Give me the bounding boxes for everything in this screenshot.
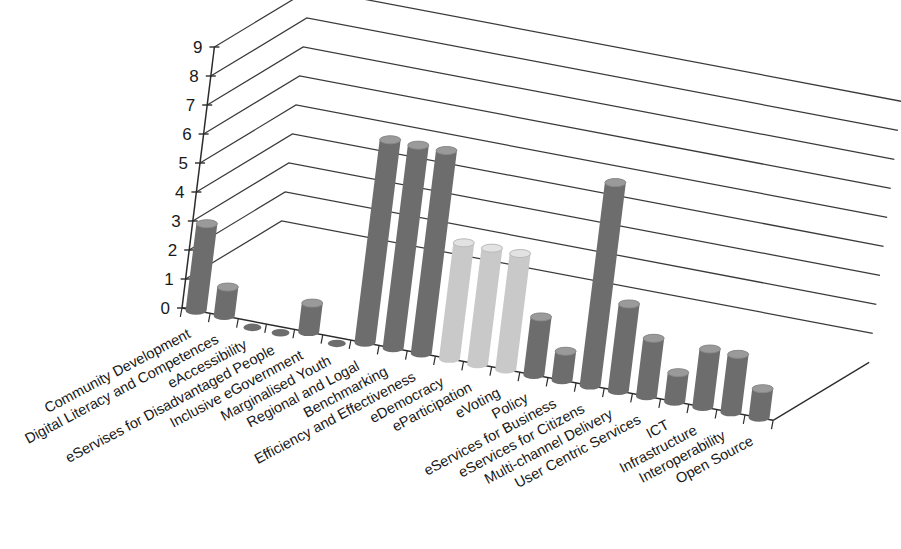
bar [664, 369, 689, 406]
value-tick-label: 4 [175, 183, 184, 202]
bar-cap [728, 350, 749, 358]
value-tick-label: 8 [189, 67, 198, 86]
bar-cap [217, 283, 238, 291]
bar [243, 324, 261, 332]
bar [272, 329, 290, 337]
bar-cap [196, 220, 217, 228]
bar-cap [619, 300, 640, 308]
bar [552, 347, 577, 384]
bar-cap [668, 369, 689, 377]
bar-zero-marker [328, 340, 346, 348]
value-tick-label: 6 [182, 125, 191, 144]
bar [749, 385, 774, 422]
chart-figure: 0123456789 Community DevelopmentDigital … [0, 0, 901, 549]
bar-cap [531, 313, 552, 321]
bar-cap [555, 347, 576, 355]
bar-cap [699, 345, 720, 353]
bar-cap [752, 385, 773, 393]
bar-cap [302, 299, 323, 307]
bar-cap [408, 141, 429, 149]
value-tick-label: 7 [186, 96, 195, 115]
bar-cap [380, 136, 401, 144]
value-tick-label: 5 [179, 154, 188, 173]
chart-canvas: 0123456789 Community DevelopmentDigital … [0, 0, 901, 549]
value-tick-label: 3 [171, 212, 180, 231]
value-tick-label: 9 [193, 38, 202, 57]
bar-cap [453, 239, 474, 247]
bar-cap [605, 179, 626, 187]
bar-zero-marker [272, 329, 290, 337]
bar [328, 340, 346, 348]
value-tick-label: 2 [168, 241, 177, 260]
bar-cap [510, 250, 531, 258]
bar-cap [436, 146, 457, 154]
value-tick-label: 1 [164, 270, 173, 289]
bar-cap [643, 334, 664, 342]
bar [214, 283, 239, 320]
bar-cap [481, 244, 502, 252]
bar-zero-marker [243, 324, 261, 332]
value-tick-label: 0 [161, 299, 170, 318]
bar [298, 299, 323, 336]
